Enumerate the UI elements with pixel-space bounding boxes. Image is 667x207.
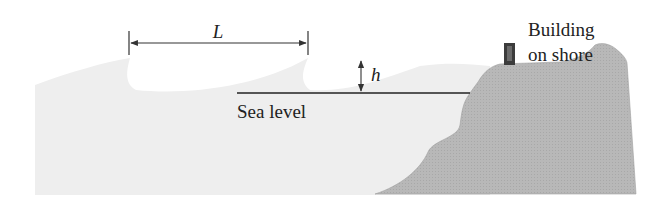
wave-height-label: h (371, 64, 381, 85)
sea-level-label: Sea level (237, 101, 306, 122)
tsunami-diagram: L h Sea level Building on shore (0, 0, 667, 207)
building-windows (507, 46, 512, 61)
wavelength-label: L (212, 21, 224, 42)
building-label-line1: Building (528, 19, 595, 40)
building-label-line2: on shore (528, 44, 593, 65)
